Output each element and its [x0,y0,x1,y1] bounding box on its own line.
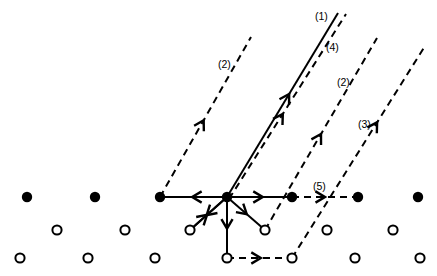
vector-reverse-up-right [190,197,227,230]
filled-atom [413,192,423,202]
vector-3 [292,46,425,258]
open-atom [120,225,129,234]
label-layer: (1)(4)(2)(2)(3)(5) [218,10,371,192]
vector-3-shaft [292,46,425,258]
filled-atom [353,192,363,202]
label-3: (3) [358,118,371,130]
filled-atom [90,192,100,202]
label-4: (4) [326,41,339,53]
vector-2-left-shaft [160,37,251,197]
open-atom [388,225,397,234]
open-atom [15,253,24,262]
open-atom [83,253,92,262]
vector-hub-right [227,191,292,202]
open-atom [52,225,61,234]
figure-canvas: (1)(4)(2)(2)(3)(5) [0,0,437,276]
label-1: (1) [315,10,328,22]
vector-layer [160,13,425,264]
open-atom [150,253,159,262]
vector-2-left [160,37,251,197]
vector-1-shaft [227,13,338,197]
open-atom [350,253,359,262]
open-atom [222,253,231,262]
open-atom [287,253,296,262]
vector-hub-down [221,197,232,258]
label-2-left: (2) [218,58,231,70]
filled-atom [22,192,32,202]
open-atom [185,225,194,234]
vector-bottom-dashed [227,252,292,263]
label-2-right: (2) [337,76,350,88]
lattice-vector-diagram: (1)(4)(2)(2)(3)(5) [0,0,437,276]
filled-atom [287,192,297,202]
open-atom [260,225,269,234]
vector-1 [227,13,338,197]
open-atom [322,225,331,234]
open-atom [415,253,424,262]
vector-hub-down-right [227,197,265,230]
filled-atom [155,192,165,202]
vector-hub-left [160,191,227,202]
filled-atom [222,192,232,202]
vector-5 [292,191,358,202]
label-5: (5) [313,180,326,192]
